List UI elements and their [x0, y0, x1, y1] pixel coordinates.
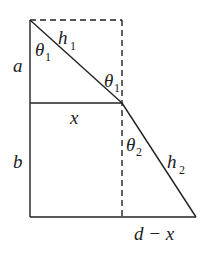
hypotenuse-h2 — [122, 103, 196, 217]
label-b: b — [13, 151, 23, 172]
geometry-diagram: a b x d − x h 1 h 2 θ 1 θ 1 θ 2 — [0, 0, 204, 264]
label-a: a — [13, 55, 23, 76]
label-theta2: θ — [126, 134, 135, 155]
label-d-minus-x: d − x — [134, 223, 175, 244]
label-h2: h — [167, 151, 177, 172]
label-theta2-sub: 2 — [136, 145, 142, 159]
label-theta1-top: θ — [35, 39, 44, 60]
label-theta1-top-sub: 1 — [45, 50, 51, 64]
label-theta1-mid: θ — [104, 70, 113, 91]
label-h1-sub: 1 — [70, 39, 76, 53]
label-x: x — [69, 107, 79, 128]
label-theta1-mid-sub: 1 — [114, 81, 120, 95]
label-h2-sub: 2 — [179, 163, 185, 177]
label-h1: h — [58, 27, 68, 48]
